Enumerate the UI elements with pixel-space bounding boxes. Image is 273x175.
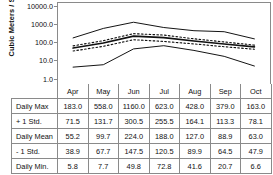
row-label: - 1 Std. (12, 144, 58, 159)
column-header-aug: Aug (180, 84, 211, 99)
table-cell: 5.8 (58, 159, 89, 174)
table-row: Daily Max183.0558.01160.0623.0428.0379.0… (12, 99, 272, 114)
table-cell: 49.8 (119, 159, 150, 174)
column-header-apr: Apr (58, 84, 89, 99)
table-cell: 20.7 (210, 159, 241, 174)
table-cell: 89.9 (180, 144, 211, 159)
series-daily-min (73, 46, 254, 67)
column-header-sep: Sep (210, 84, 241, 99)
y-tick-label-10: 10.0 (39, 57, 53, 64)
chart-figure: Cubic Meters / Second 10000.0 1000.0 100… (0, 0, 273, 175)
table-body: AprMayJunJulAugSepOctDaily Max183.0558.0… (12, 84, 272, 174)
column-header-jun: Jun (119, 84, 150, 99)
table-cell: 300.5 (119, 114, 150, 129)
table-cell: 113.3 (210, 114, 241, 129)
y-axis: 10000.0 1000.0 100.0 10.0 1.0 (0, 0, 57, 84)
table-cell: 163.0 (241, 99, 272, 114)
table-cell: 63.0 (241, 129, 272, 144)
table-cell: 428.0 (180, 99, 211, 114)
y-tick-label-1000: 1000.0 (31, 21, 53, 28)
y-tick-label-100: 100.0 (35, 39, 53, 46)
table-cell: 55.2 (58, 129, 89, 144)
row-label: Daily Max (12, 99, 58, 114)
table-cell: 623.0 (149, 99, 180, 114)
table-row: Daily Mean55.299.7224.0188.0127.088.963.… (12, 129, 272, 144)
column-header-oct: Oct (241, 84, 272, 99)
data-table: AprMayJunJulAugSepOctDaily Max183.0558.0… (11, 84, 272, 174)
table-row: + 1 Std.71.5131.7300.5255.5164.1113.378.… (12, 114, 272, 129)
table-cell: 78.1 (241, 114, 272, 129)
table-cell: 379.0 (210, 99, 241, 114)
y-tick-label-1: 1.0 (43, 76, 53, 83)
row-label: Daily Mean (12, 129, 58, 144)
table-corner-cell (12, 84, 58, 99)
table-cell: 41.6 (180, 159, 211, 174)
table-cell: 224.0 (119, 129, 150, 144)
table-cell: 7.7 (88, 159, 119, 174)
series-daily-max (73, 22, 254, 39)
row-label: Daily Min. (12, 159, 58, 174)
table-cell: 64.5 (210, 144, 241, 159)
table-row: - 1 Std.38.967.7147.5120.589.964.547.9 (12, 144, 272, 159)
table-cell: 71.5 (58, 114, 89, 129)
table-cell: 120.5 (149, 144, 180, 159)
table-cell: 131.7 (88, 114, 119, 129)
table-cell: 6.6 (241, 159, 272, 174)
table-cell: 67.7 (88, 144, 119, 159)
table-cell: 88.9 (210, 129, 241, 144)
y-tick-label-10000: 10000.0 (27, 3, 53, 10)
row-label: + 1 Std. (12, 114, 58, 129)
table-cell: 47.9 (241, 144, 272, 159)
table-cell: 99.7 (88, 129, 119, 144)
table-row: Daily Min.5.87.749.872.841.620.76.6 (12, 159, 272, 174)
table-cell: 183.0 (58, 99, 89, 114)
table-cell: 72.8 (149, 159, 180, 174)
table-cell: 188.0 (149, 129, 180, 144)
table-cell: 558.0 (88, 99, 119, 114)
table-cell: 1160.0 (119, 99, 150, 114)
table-cell: 38.9 (58, 144, 89, 159)
table-cell: 255.5 (149, 114, 180, 129)
line-chart-svg (58, 3, 270, 84)
table-cell: 147.5 (119, 144, 150, 159)
series-layer (73, 22, 254, 67)
table-header-row: AprMayJunJulAugSepOct (12, 84, 272, 99)
column-header-jul: Jul (149, 84, 180, 99)
table-cell: 127.0 (180, 129, 211, 144)
plot-area (57, 2, 271, 84)
column-header-may: May (88, 84, 119, 99)
table-cell: 164.1 (180, 114, 211, 129)
